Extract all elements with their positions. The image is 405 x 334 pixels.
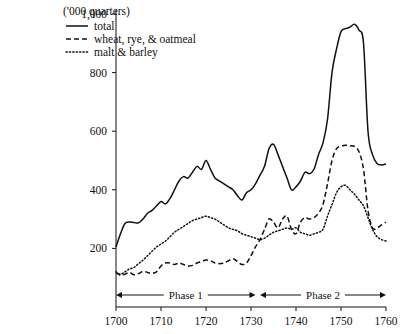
phase-arrowhead-end bbox=[250, 292, 256, 298]
phase-label: Phase 2 bbox=[306, 289, 340, 301]
x-tick-label: 1740 bbox=[285, 315, 308, 327]
x-tick-label: 1730 bbox=[240, 315, 263, 327]
series-path-malt-barley bbox=[116, 185, 386, 274]
phase-annotation-1: Phase 1 bbox=[116, 289, 256, 301]
units-note: ('000 quarters) bbox=[63, 5, 130, 18]
x-tick-label: 1720 bbox=[195, 315, 218, 327]
x-tick-label: 1760 bbox=[375, 315, 398, 327]
phase-arrowhead-start bbox=[116, 292, 122, 298]
line-chart-plot: 2004006008001,000 1700171017201730174017… bbox=[0, 0, 405, 334]
y-tick-label: 600 bbox=[90, 125, 108, 137]
legend-label-total: total bbox=[94, 20, 114, 32]
phase-arrowhead-start bbox=[260, 292, 266, 298]
phase-arrowhead-end bbox=[380, 292, 386, 298]
x-axis-ticks bbox=[116, 307, 386, 311]
phase-annotation-2: Phase 2 bbox=[260, 289, 386, 301]
x-tick-label: 1700 bbox=[105, 315, 128, 327]
x-tick-label: 1750 bbox=[330, 315, 353, 327]
legend: ('000 quarters) total wheat, rye, & oatm… bbox=[63, 5, 196, 59]
y-tick-label: 200 bbox=[90, 242, 108, 254]
x-tick-label: 1710 bbox=[150, 315, 173, 327]
chart-container: 2004006008001,000 1700171017201730174017… bbox=[0, 0, 405, 334]
series-path-wheat-rye-oatmeal bbox=[116, 145, 386, 275]
y-tick-label: 800 bbox=[90, 67, 108, 79]
y-tick-label: 400 bbox=[90, 184, 108, 196]
phase-annotations: Phase 1Phase 2 bbox=[116, 289, 386, 301]
legend-label-malt-barley: malt & barley bbox=[94, 46, 158, 59]
phase-label: Phase 1 bbox=[169, 289, 203, 301]
x-axis-labels: 1700171017201730174017501760 bbox=[105, 315, 398, 327]
data-series-group bbox=[116, 24, 386, 275]
legend-label-wheat-rye-oatmeal: wheat, rye, & oatmeal bbox=[94, 33, 196, 46]
